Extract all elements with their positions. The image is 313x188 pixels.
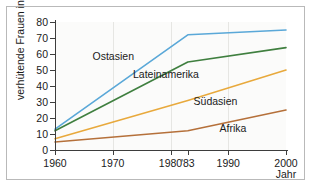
x-tick-label-1983: '83: [181, 157, 195, 169]
y-tick-40: [50, 86, 56, 87]
x-tick-1980: [171, 150, 172, 155]
y-tick-70: [50, 38, 56, 39]
y-tick-50: [50, 70, 56, 71]
x-tick-1960: [55, 150, 56, 155]
series-lines: [55, 22, 286, 150]
y-tick-label-80: 80: [20, 16, 48, 28]
y-tick-label-70: 70: [20, 32, 48, 44]
series-label-afrika: Afrika: [220, 122, 247, 134]
y-tick-label-50: 50: [20, 64, 48, 76]
x-tick-label-1980: 1980: [159, 157, 182, 169]
y-tick-30: [50, 102, 56, 103]
x-tick-2000: [286, 150, 287, 155]
x-tick-label-1990: 1990: [217, 157, 240, 169]
series-label-südasien: Südasien: [194, 95, 238, 107]
y-tick-20: [50, 118, 56, 119]
x-tick-1970: [113, 150, 114, 155]
series-line-afrika: [55, 110, 286, 142]
x-tick-label-1970: 1970: [101, 157, 124, 169]
chart-screenshot: verhütende Frauen in % 01020304050607080…: [0, 0, 313, 188]
y-tick-label-30: 30: [20, 96, 48, 108]
y-tick-60: [50, 54, 56, 55]
x-tick-label-1960: 1960: [43, 157, 66, 169]
y-tick-label-0: 0: [20, 144, 48, 156]
series-label-ostasien: Ostasien: [93, 50, 134, 62]
y-tick-80: [50, 22, 56, 23]
x-tick-1990: [228, 150, 229, 155]
series-line-lateinamerika: [55, 48, 286, 131]
y-tick-label-60: 60: [20, 48, 48, 60]
series-label-lateinamerika: Lateinamerika: [133, 68, 199, 80]
y-tick-label-10: 10: [20, 128, 48, 140]
plot-area: [55, 22, 286, 150]
x-axis-title: Jahr: [276, 168, 296, 180]
y-tick-label-40: 40: [20, 80, 48, 92]
y-tick-label-20: 20: [20, 112, 48, 124]
x-tick-1983: [188, 150, 189, 155]
y-tick-10: [50, 134, 56, 135]
